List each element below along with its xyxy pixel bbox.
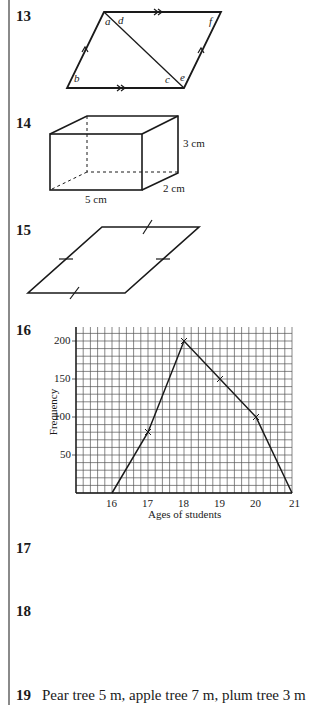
figures-canvas (0, 0, 311, 705)
angle-label-a: a (105, 15, 111, 27)
rhombus-figure (28, 220, 199, 299)
y-axis-label: Frequency (47, 377, 59, 447)
question-number-16: 16 (16, 322, 31, 339)
height-label: 3 cm (183, 137, 205, 149)
angle-label-e: e (180, 71, 185, 83)
question-number-19: 19 (16, 687, 31, 704)
x-tick-16: 16 (106, 497, 117, 509)
question-number-18: 18 (16, 603, 31, 620)
parallelogram-figure (67, 9, 221, 91)
length-label: 5 cm (85, 193, 107, 205)
angle-label-f: f (209, 15, 212, 27)
question-number-14: 14 (16, 115, 31, 132)
x-tick-20: 20 (250, 497, 261, 509)
x-axis-label: Ages of students (148, 508, 221, 520)
frequency-polygon-line (112, 338, 292, 493)
x-tick-21: 21 (289, 497, 300, 509)
y-tick-200: 200 (54, 334, 71, 346)
question-number-17: 17 (16, 540, 31, 557)
angle-label-c: c (165, 73, 170, 85)
width-label: 2 cm (163, 182, 185, 194)
angle-label-b: b (74, 72, 80, 84)
chart-grid (72, 327, 292, 493)
answer-19-text: Pear tree 5 m, apple tree 7 m, plum tree… (42, 687, 306, 704)
y-tick-50: 50 (60, 448, 71, 460)
angle-label-d: d (118, 14, 124, 26)
cuboid-figure (50, 116, 178, 190)
question-number-15: 15 (16, 222, 31, 239)
